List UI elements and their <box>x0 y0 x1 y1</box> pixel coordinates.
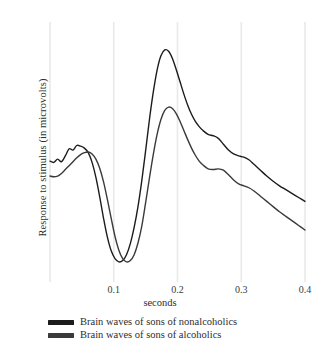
legend-item: Brain waves of sons of nonalcoholics <box>48 316 320 328</box>
x-tick-label: 0.3 <box>224 284 258 295</box>
legend-swatch-icon <box>48 333 74 338</box>
chart-figure: Response to stimulus (in microvolts) 0.1… <box>0 0 320 356</box>
legend-item: Brain waves of sons of alcoholics <box>48 329 320 341</box>
x-axis-label: seconds <box>0 297 320 308</box>
x-tick-label: 0.4 <box>288 284 320 295</box>
x-tick-label: 0.1 <box>97 284 131 295</box>
chart-legend: Brain waves of sons of nonalcoholicsBrai… <box>48 316 320 342</box>
legend-swatch-icon <box>48 320 74 325</box>
legend-label: Brain waves of sons of alcoholics <box>80 329 221 341</box>
x-tick-label: 0.2 <box>161 284 195 295</box>
y-axis-label: Response to stimulus (in microvolts) <box>37 33 48 283</box>
legend-label: Brain waves of sons of nonalcoholics <box>80 316 237 328</box>
